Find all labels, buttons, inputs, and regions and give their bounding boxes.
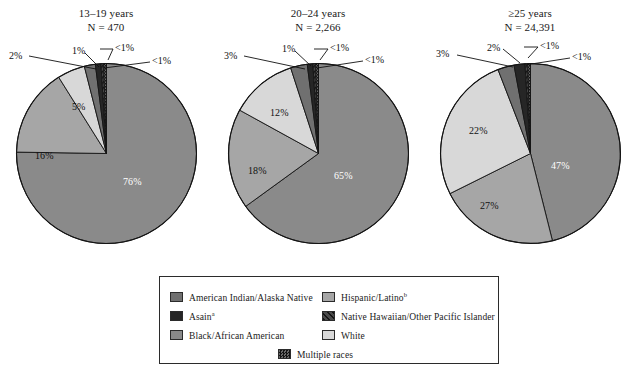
legend-label: Black/African American bbox=[189, 327, 284, 342]
legend-item-native-hawaiian-pacific-islander[interactable]: Native Hawaiian/Other Pacific Islander bbox=[322, 308, 495, 323]
legend-swatch-black-african-american bbox=[170, 330, 183, 340]
slice-value-18: 18% bbox=[248, 165, 267, 176]
legend-swatch-multiple-races bbox=[278, 349, 291, 359]
slice-value-3: 3% bbox=[436, 48, 450, 59]
slice-value-nh-lt1: <1% bbox=[115, 42, 134, 53]
slice-value-mr-lt1: <1% bbox=[572, 51, 591, 62]
slice-value-5: 5% bbox=[72, 101, 86, 112]
pie-chart-20-24 bbox=[227, 62, 410, 245]
slice-value-nh-lt1: <1% bbox=[330, 42, 349, 53]
legend: American Indian/Alaska Native Asaina Bla… bbox=[159, 276, 499, 364]
panel-title-line2: N = 24,391 bbox=[424, 21, 636, 35]
pie-panel-25-plus: ≥25 years N = 24,391 47% 22% 27% 3% 2% <… bbox=[424, 0, 636, 268]
panel-title-line1: 13–19 years bbox=[0, 7, 212, 21]
legend-item-american-indian-alaska-native[interactable]: American Indian/Alaska Native bbox=[170, 289, 313, 304]
panel-title-line1: ≥25 years bbox=[424, 7, 636, 21]
slice-value-22: 22% bbox=[469, 125, 488, 136]
slice-value-mr-lt1: <1% bbox=[152, 55, 171, 66]
figure-race-distribution-by-age: 13–19 years N = 470 76% 16% 5% 2% 1% <1%… bbox=[0, 0, 638, 378]
panel-title-line2: N = 2,266 bbox=[212, 21, 424, 35]
slice-value-3: 3% bbox=[224, 50, 238, 61]
legend-label: Multiple races bbox=[297, 346, 353, 361]
legend-label: Hispanic/Latinob bbox=[341, 289, 407, 304]
legend-label: Native Hawaiian/Other Pacific Islander bbox=[341, 308, 495, 323]
pie-chart-25-plus bbox=[439, 62, 622, 245]
pie-panel-13-19: 13–19 years N = 470 76% 16% 5% 2% 1% <1%… bbox=[0, 0, 212, 268]
legend-item-hispanic-latino[interactable]: Hispanic/Latinob bbox=[322, 289, 407, 304]
slice-value-65: 65% bbox=[334, 170, 353, 181]
legend-item-multiple-races[interactable]: Multiple races bbox=[278, 346, 353, 361]
legend-swatch-native-hawaiian-pacific-islander bbox=[322, 311, 335, 321]
legend-swatch-white bbox=[322, 330, 335, 340]
slice-value-1: 1% bbox=[282, 43, 296, 54]
panel-title-25-plus: ≥25 years N = 24,391 bbox=[424, 7, 636, 34]
slice-value-16: 16% bbox=[35, 150, 54, 161]
slice-value-47: 47% bbox=[551, 160, 570, 171]
panel-title-20-24: 20–24 years N = 2,266 bbox=[212, 7, 424, 34]
slice-value-76: 76% bbox=[123, 176, 142, 187]
panel-title-line2: N = 470 bbox=[0, 21, 212, 35]
slice-value-mr-lt1: <1% bbox=[365, 54, 384, 65]
legend-swatch-american-indian-alaska-native bbox=[170, 292, 183, 302]
slice-value-27: 27% bbox=[480, 200, 499, 211]
legend-swatch-hispanic-latino bbox=[322, 292, 335, 302]
legend-label: White bbox=[341, 327, 365, 342]
legend-label: Asaina bbox=[189, 308, 215, 323]
pie-panel-20-24: 20–24 years N = 2,266 65% 18% 12% 3% 1% … bbox=[212, 0, 424, 268]
legend-label: American Indian/Alaska Native bbox=[189, 289, 313, 304]
panel-title-line1: 20–24 years bbox=[212, 7, 424, 21]
slice-value-nh-lt1: <1% bbox=[540, 40, 559, 51]
slice-value-2: 2% bbox=[9, 50, 23, 61]
legend-swatch-asian bbox=[170, 311, 183, 321]
slice-value-12: 12% bbox=[270, 107, 289, 118]
slice-value-2: 2% bbox=[487, 42, 501, 53]
panel-title-13-19: 13–19 years N = 470 bbox=[0, 7, 212, 34]
slice-value-1: 1% bbox=[72, 45, 86, 56]
legend-item-black-african-american[interactable]: Black/African American bbox=[170, 327, 284, 342]
legend-item-white[interactable]: White bbox=[322, 327, 365, 342]
legend-item-asian[interactable]: Asaina bbox=[170, 308, 215, 323]
